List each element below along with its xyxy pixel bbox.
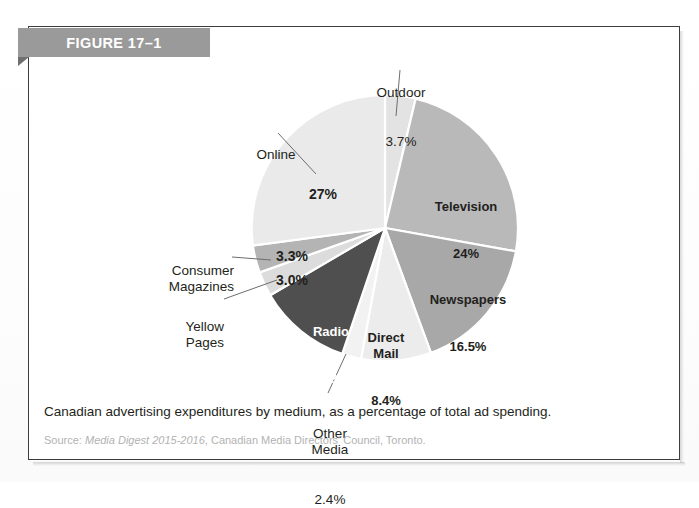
source-title: Media Digest 2015-2016	[85, 434, 205, 446]
label-consumer-magazines-value: 3.3%	[276, 248, 324, 265]
label-newspapers-value: 16.5%	[410, 339, 526, 355]
source-prefix: Source:	[44, 434, 85, 446]
label-newspapers: Newspapers 16.5%	[410, 260, 526, 387]
source-rest: , Canadian Media Directors' Council, Tor…	[205, 434, 426, 446]
figure-number-label: FIGURE 17–1	[66, 35, 161, 51]
figure-source: Source: Media Digest 2015-2016, Canadian…	[44, 434, 644, 446]
label-online-value: 27%	[293, 186, 353, 203]
banner-fold-corner	[18, 57, 29, 66]
label-yellow-pages: Yellow Pages	[154, 286, 224, 385]
label-outdoor-name: Outdoor	[362, 85, 440, 101]
label-radio-name: Radio	[296, 324, 366, 340]
label-outdoor-value: 3.7%	[362, 134, 440, 150]
label-newspapers-name: Newspapers	[410, 292, 526, 308]
pie-chart: Outdoor 3.7% Online 27% Television 24% N…	[28, 26, 680, 460]
figure-caption: Canadian advertising expenditures by med…	[44, 404, 644, 419]
figure-number-banner: FIGURE 17–1	[18, 28, 210, 57]
label-radio-value: 11.3%	[296, 371, 366, 387]
label-online-name: Online	[236, 147, 316, 163]
label-online: Online	[236, 114, 316, 196]
label-yellow-pages-value: 3.0%	[276, 272, 324, 289]
label-television-name: Television	[413, 199, 519, 215]
label-other-media-value: 2.4%	[294, 492, 366, 508]
label-yellow-pages-name: Yellow Pages	[154, 319, 224, 352]
figure-frame-shadow-right	[680, 31, 684, 463]
label-outdoor: Outdoor 3.7%	[362, 52, 440, 184]
